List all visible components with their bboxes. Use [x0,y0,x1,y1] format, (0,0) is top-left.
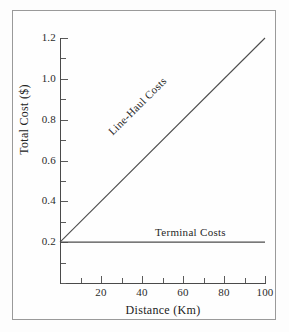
y-axis-title: Total Cost ($) [17,60,32,180]
chart-figure: 0.20.40.60.81.01.220406080100 Line-Haul … [0,0,289,332]
series-layer [0,0,289,332]
x-axis-title: Distance (Km) [60,303,266,318]
terminal-annotation: Terminal Costs [155,226,226,238]
line-haul-series [60,38,265,242]
